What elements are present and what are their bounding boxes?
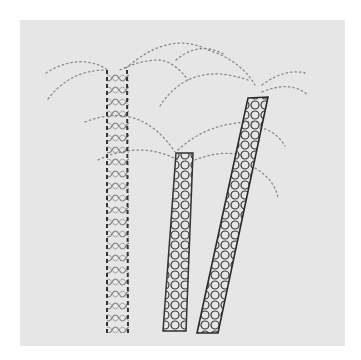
left-palm-trunk [107, 70, 129, 333]
right-palm-trunk [197, 97, 268, 333]
middle-palm-trunk [163, 153, 193, 331]
embroidery-artwork [0, 0, 361, 360]
